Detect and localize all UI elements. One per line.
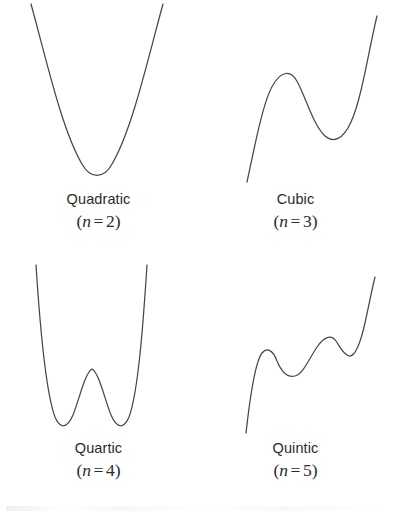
panel-quintic: Quintic (n=5) — [197, 257, 394, 514]
quintic-degree-variable: n — [279, 460, 288, 480]
quartic-curve — [36, 265, 147, 426]
quadratic-degree: (n=2) — [0, 210, 197, 233]
quartic-plot — [0, 257, 197, 457]
quintic-caption: Quintic (n=5) — [197, 439, 394, 482]
quadratic-caption: Quadratic (n=2) — [0, 190, 197, 233]
quartic-degree-value: 4 — [106, 460, 115, 480]
quadratic-curve — [31, 4, 163, 175]
quartic-label: Quartic — [0, 439, 197, 458]
cubic-degree-operator: = — [288, 211, 303, 231]
quadratic-degree-variable: n — [82, 211, 91, 231]
quintic-degree: (n=5) — [197, 459, 394, 482]
quartic-degree-variable: n — [82, 460, 91, 480]
quintic-curve — [246, 277, 375, 433]
quintic-plot — [197, 257, 394, 457]
quadratic-degree-operator: = — [91, 211, 106, 231]
cubic-caption: Cubic (n=3) — [197, 190, 394, 233]
panel-cubic: Cubic (n=3) — [197, 0, 394, 257]
polynomial-shapes-figure: Quadratic (n=2) Cubic (n=3) Quartic (n=4… — [0, 0, 394, 514]
cubic-degree-variable: n — [279, 211, 288, 231]
quintic-degree-operator: = — [288, 460, 303, 480]
cubic-label: Cubic — [197, 190, 394, 209]
cubic-degree: (n=3) — [197, 210, 394, 233]
quadratic-plot — [0, 0, 197, 200]
cubic-degree-value: 3 — [303, 211, 312, 231]
quadratic-degree-value: 2 — [106, 211, 115, 231]
quartic-degree: (n=4) — [0, 459, 197, 482]
panel-quartic: Quartic (n=4) — [0, 257, 197, 514]
cubic-plot — [197, 0, 394, 200]
quadratic-label: Quadratic — [0, 190, 197, 209]
scan-artifact — [6, 506, 388, 511]
quintic-label: Quintic — [197, 439, 394, 458]
cubic-curve — [247, 16, 377, 182]
quartic-degree-operator: = — [91, 460, 106, 480]
quartic-caption: Quartic (n=4) — [0, 439, 197, 482]
quintic-degree-value: 5 — [303, 460, 312, 480]
panel-quadratic: Quadratic (n=2) — [0, 0, 197, 257]
